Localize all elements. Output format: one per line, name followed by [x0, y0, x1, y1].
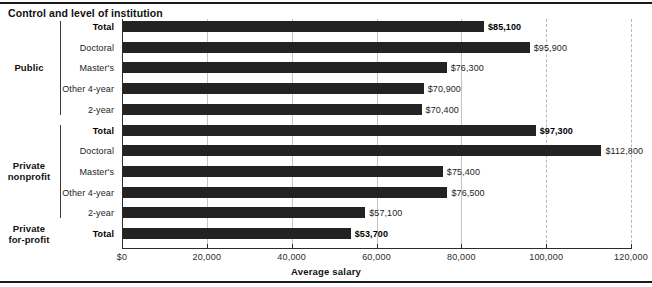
bar[interactable] — [123, 83, 424, 94]
row-label: Other 4-year — [0, 84, 118, 94]
x-tick-label: 120,000 — [614, 252, 648, 262]
bar[interactable] — [123, 125, 536, 136]
bar[interactable] — [123, 145, 601, 156]
bar-value-label: $70,400 — [426, 105, 459, 115]
group-label: Privatefor-profit — [0, 223, 58, 245]
x-tick-label: $0 — [117, 252, 127, 262]
group-bracket — [60, 21, 61, 115]
chart-figure: Control and level of institution $020,00… — [0, 0, 652, 287]
row-label: Doctoral — [0, 43, 118, 53]
row-label: 2-year — [0, 208, 118, 218]
x-tick-label: 100,000 — [529, 252, 563, 262]
row-label: Other 4-year — [0, 188, 118, 198]
bar[interactable] — [123, 104, 422, 115]
bar-value-label: $76,300 — [451, 63, 484, 73]
bar[interactable] — [123, 187, 447, 198]
x-tick-label: 80,000 — [447, 252, 476, 262]
bar-value-label: $76,500 — [451, 188, 484, 198]
bar-value-label: $70,900 — [428, 84, 461, 94]
bar-value-label: $75,400 — [447, 167, 480, 177]
bar-value-label: $85,100 — [488, 22, 521, 32]
x-axis-line — [122, 248, 631, 249]
bar-value-label: $57,100 — [369, 208, 402, 218]
bar[interactable] — [123, 228, 351, 239]
bar-value-label: $53,700 — [355, 229, 388, 239]
x-tick-label: 40,000 — [277, 252, 306, 262]
group-label: Privatenonprofit — [0, 160, 58, 182]
x-axis-title: Average salary — [0, 266, 652, 277]
row-label: Doctoral — [0, 146, 118, 156]
row-label: Total — [0, 22, 118, 32]
bar[interactable] — [123, 21, 484, 32]
bar-value-label: $112,800 — [605, 146, 643, 156]
bar[interactable] — [123, 166, 443, 177]
row-label: 2-year — [0, 105, 118, 115]
x-tick-120000 — [631, 244, 632, 249]
row-label: Total — [0, 126, 118, 136]
gridline-120000 — [631, 19, 632, 248]
bar-value-label: $97,300 — [540, 126, 573, 136]
bar[interactable] — [123, 62, 447, 73]
group-label: Public — [0, 62, 58, 73]
bar[interactable] — [123, 207, 365, 218]
bar[interactable] — [123, 42, 530, 53]
plot-area: $020,00040,00060,00080,000100,000120,000… — [0, 0, 652, 287]
x-tick-label: 20,000 — [192, 252, 221, 262]
bar-value-label: $95,900 — [534, 43, 567, 53]
group-bracket — [60, 125, 61, 219]
x-tick-label: 60,000 — [362, 252, 391, 262]
